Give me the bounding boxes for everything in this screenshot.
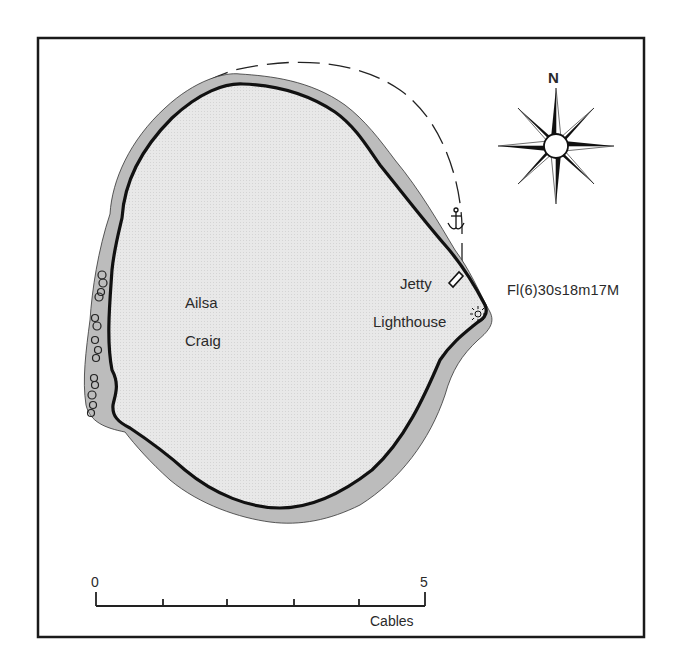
lighthouse-label: Lighthouse [373,314,446,329]
island-name-line1: Ailsa [185,295,218,310]
compass-north-label: N [548,70,559,85]
scale-start-label: 0 [91,575,99,589]
island-land [109,84,486,508]
scale-end-label: 5 [420,575,428,589]
light-characteristic-label: Fl(6)30s18m17M [507,283,619,298]
scale-bar [96,592,425,606]
jetty-label: Jetty [400,276,432,291]
chart-map [0,0,675,670]
island-name-line2: Craig [185,333,221,348]
compass-rose-icon [498,88,614,204]
scale-unit-label: Cables [370,614,414,628]
